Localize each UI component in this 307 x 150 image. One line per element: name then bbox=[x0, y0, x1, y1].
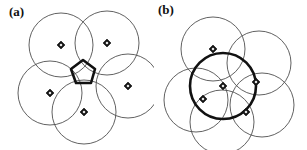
panel-a: (a) bbox=[0, 0, 154, 150]
panel-b-drawing bbox=[153, 0, 307, 150]
figure-container: (a) (b) bbox=[0, 0, 307, 150]
packing-circle-3 bbox=[230, 73, 294, 137]
highlight-pentagon bbox=[71, 60, 95, 83]
panel-a-drawing bbox=[0, 0, 154, 150]
packing-circle-5 bbox=[164, 68, 228, 132]
panel-b: (b) bbox=[153, 0, 307, 150]
